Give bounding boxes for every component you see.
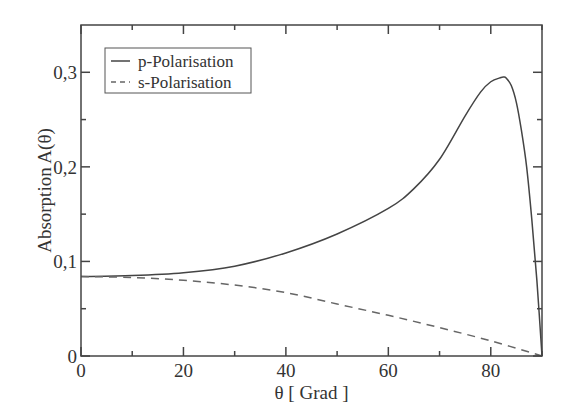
y-tick-label: 0 [68,346,78,367]
legend: p-Polarisation s-Polarisation [105,48,251,93]
y-tick-label: 0,1 [53,251,77,272]
y-axis-label: Absorption A(θ) [34,128,56,253]
y-tick-label: 0,2 [53,157,77,178]
legend-label-s: s-Polarisation [138,73,232,92]
x-tick-label: 80 [481,360,500,381]
y-tick-label: 0,3 [53,62,77,83]
x-tick-label: 20 [174,360,193,381]
legend-label-p: p-Polarisation [138,52,234,71]
x-axis-label: θ [ Grad ] [275,382,349,403]
axis-tick-labels: 02040608000,10,20,3 [53,62,500,381]
x-tick-label: 60 [379,360,398,381]
s-polarisation-curve [81,277,542,356]
plot-curves [81,77,542,356]
x-tick-label: 40 [276,360,295,381]
chart: 02040608000,10,20,3 θ [ Grad ] Absorptio… [0,0,576,415]
p-polarisation-curve [81,77,542,356]
x-tick-label: 0 [76,360,86,381]
